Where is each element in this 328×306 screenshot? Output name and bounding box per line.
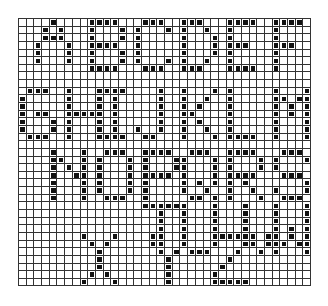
filled-cell — [303, 241, 311, 249]
grid-cell — [88, 103, 96, 111]
grid-cell — [19, 42, 27, 50]
grid-cell — [127, 248, 135, 256]
filled-cell — [211, 50, 219, 58]
grid-cell — [227, 72, 235, 80]
filled-cell — [234, 233, 242, 241]
filled-cell — [157, 248, 165, 256]
filled-cell — [81, 157, 89, 165]
grid-cell — [173, 141, 181, 149]
grid-cell — [196, 164, 204, 172]
filled-cell — [111, 126, 119, 134]
filled-cell — [50, 149, 58, 157]
grid-cell — [242, 111, 250, 119]
grid-cell — [219, 218, 227, 226]
grid-cell — [104, 248, 112, 256]
grid-cell — [119, 141, 127, 149]
filled-cell — [288, 225, 296, 233]
grid-cell — [73, 72, 81, 80]
filled-cell — [180, 202, 188, 210]
filled-cell — [296, 172, 304, 180]
filled-cell — [280, 172, 288, 180]
grid-cell — [73, 202, 81, 210]
filled-cell — [180, 65, 188, 73]
grid-cell — [19, 187, 27, 195]
grid-cell — [227, 225, 235, 233]
grid-cell — [57, 187, 65, 195]
grid-cell — [19, 210, 27, 218]
grid-cell — [296, 218, 304, 226]
filled-cell — [88, 34, 96, 42]
grid-cell — [265, 50, 273, 58]
grid-cell — [104, 27, 112, 35]
grid-cell — [134, 202, 142, 210]
grid-cell — [19, 65, 27, 73]
filled-cell — [134, 57, 142, 65]
grid-cell — [50, 248, 58, 256]
grid-cell — [273, 256, 281, 264]
grid-cell — [127, 95, 135, 103]
grid-cell — [196, 157, 204, 165]
grid-cell — [142, 80, 150, 88]
filled-cell — [227, 42, 235, 50]
grid-cell — [88, 264, 96, 272]
grid-cell — [242, 103, 250, 111]
grid-cell — [57, 72, 65, 80]
grid-cell — [303, 50, 311, 58]
grid-cell — [142, 50, 150, 58]
grid-cell — [219, 149, 227, 157]
grid-cell — [81, 118, 89, 126]
grid-cell — [57, 103, 65, 111]
filled-cell — [211, 134, 219, 142]
grid-cell — [180, 195, 188, 203]
filled-cell — [180, 95, 188, 103]
filled-cell — [142, 202, 150, 210]
grid-cell — [234, 50, 242, 58]
filled-cell — [180, 118, 188, 126]
grid-cell — [150, 42, 158, 50]
grid-cell — [211, 72, 219, 80]
grid-cell — [280, 210, 288, 218]
grid-cell — [165, 179, 173, 187]
grid-cell — [88, 210, 96, 218]
grid-cell — [134, 134, 142, 142]
filled-cell — [180, 103, 188, 111]
grid-cell — [165, 103, 173, 111]
grid-cell — [111, 218, 119, 226]
grid-cell — [81, 126, 89, 134]
filled-cell — [303, 95, 311, 103]
grid-cell — [280, 141, 288, 149]
filled-cell — [288, 233, 296, 241]
filled-cell — [303, 187, 311, 195]
grid-cell — [196, 187, 204, 195]
grid-cell — [42, 126, 50, 134]
grid-cell — [150, 57, 158, 65]
grid-cell — [211, 95, 219, 103]
grid-cell — [111, 179, 119, 187]
grid-cell — [134, 179, 142, 187]
grid-cell — [296, 65, 304, 73]
grid-cell — [134, 88, 142, 96]
grid-cell — [219, 19, 227, 27]
grid-cell — [73, 256, 81, 264]
filled-cell — [234, 248, 242, 256]
filled-cell — [234, 149, 242, 157]
filled-cell — [19, 118, 27, 126]
grid-cell — [104, 118, 112, 126]
grid-cell — [81, 103, 89, 111]
grid-cell — [57, 95, 65, 103]
filled-cell — [303, 210, 311, 218]
filled-cell — [150, 241, 158, 249]
grid-cell — [303, 19, 311, 27]
filled-cell — [234, 279, 242, 287]
grid-cell — [42, 195, 50, 203]
grid-cell — [57, 80, 65, 88]
grid-cell — [188, 95, 196, 103]
grid-cell — [250, 164, 258, 172]
filled-cell — [303, 157, 311, 165]
grid-cell — [173, 149, 181, 157]
grid-cell — [296, 126, 304, 134]
grid-cell — [96, 80, 104, 88]
grid-cell — [88, 202, 96, 210]
filled-cell — [65, 134, 73, 142]
grid-cell — [88, 218, 96, 226]
